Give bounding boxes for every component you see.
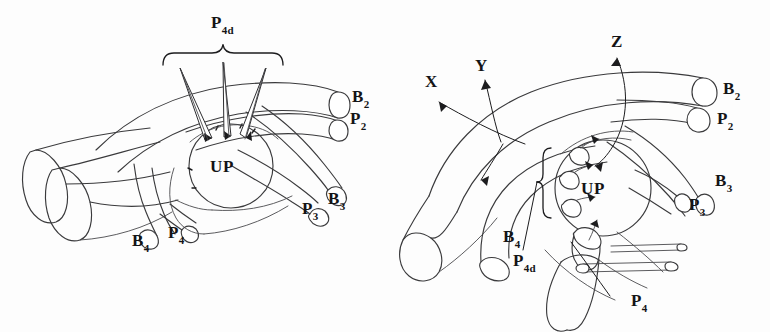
label-b3: B3: [715, 172, 732, 192]
label-b4: B4: [132, 232, 149, 252]
label-p2: P2: [350, 110, 366, 130]
p4d-bracket-label: P4d: [211, 14, 233, 34]
axis-y-leader-2: [481, 144, 503, 186]
figure-root: UP P4d B2 P2 P3 B3 B4 P4: [0, 0, 770, 332]
label-b4: B4: [503, 228, 520, 248]
label-p3: P3: [689, 196, 705, 216]
label-b2: B2: [352, 88, 369, 108]
panel-right-artwork: [385, 0, 770, 332]
up-label: UP: [581, 179, 605, 199]
up-label: UP: [210, 157, 234, 177]
label-p4: P4: [168, 224, 184, 244]
label-p4: P4: [631, 292, 647, 312]
lower-connective-sheet: [170, 168, 292, 234]
panel-right: UP X Y Z B2 P2 B3 P3 B4 P4d P4: [385, 0, 770, 332]
label-p2: P2: [717, 110, 733, 130]
label-y: Y: [475, 56, 487, 76]
label-p3: P3: [302, 200, 318, 220]
outer-vessel-b2: [429, 72, 717, 212]
label-p4d: P4d: [513, 252, 535, 272]
lower-right-sheet: [545, 232, 663, 300]
axis-y-leader: [481, 80, 501, 142]
panel-left-artwork: [0, 0, 385, 332]
axis-x-leader: [439, 102, 525, 144]
stub-branch-group: [559, 135, 599, 217]
label-b3: B3: [328, 190, 345, 210]
lower-cone: [547, 255, 599, 331]
label-b2: B2: [723, 80, 740, 100]
label-x: X: [425, 72, 437, 92]
vessel-p3: [629, 170, 691, 214]
label-z: Z: [611, 32, 622, 52]
panel-left: UP P4d B2 P2 P3 B3 B4 P4: [0, 0, 385, 332]
